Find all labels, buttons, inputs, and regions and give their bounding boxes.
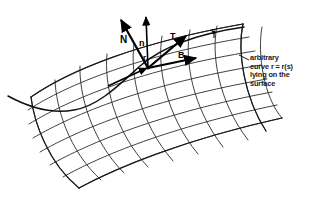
vector-label-B: B: [178, 51, 185, 60]
caption-leader: [239, 55, 249, 60]
vector-r-arrow: [108, 68, 147, 86]
diagram-canvas: N n T B r s arbitrary curve r = r(s) lyi…: [0, 0, 314, 201]
arc-length-label-s: s: [211, 27, 216, 36]
vector-label-r: r: [143, 54, 146, 62]
vector-n-arrow: [146, 17, 148, 68]
vector-label-N: N: [120, 35, 127, 45]
caption-line-4: surface: [250, 80, 293, 89]
vector-label-T: T: [170, 32, 176, 41]
caption-block: arbitrary curve r = r(s) lying on the su…: [250, 54, 293, 88]
vector-layer: [0, 0, 314, 201]
vector-label-n: n: [139, 39, 145, 48]
